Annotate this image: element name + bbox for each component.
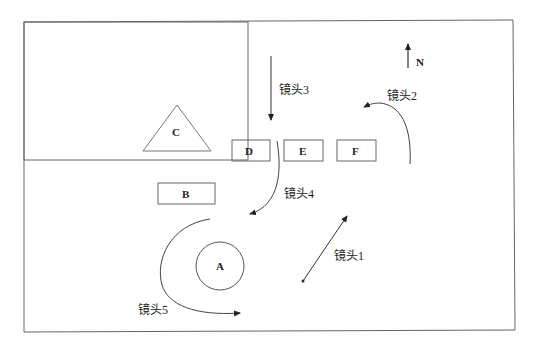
camera-move-1: 镜头1	[302, 216, 365, 283]
shot-1-label: 镜头1	[334, 248, 364, 263]
arc-arrow-icon	[160, 219, 240, 313]
object-f-label: F	[352, 145, 359, 157]
camera-move-5: 镜头5	[138, 219, 240, 317]
object-e: E	[284, 140, 323, 161]
frame-border	[24, 20, 515, 332]
camera-move-3: 镜头3	[271, 56, 309, 120]
shot-5-label: 镜头5	[138, 302, 168, 317]
object-a-label: A	[216, 260, 224, 272]
north-compass: N	[408, 44, 424, 68]
shot-4-label: 镜头4	[284, 186, 314, 201]
object-b-label: B	[182, 188, 190, 200]
object-e-label: E	[299, 145, 306, 157]
object-f: F	[337, 140, 376, 161]
object-c: C	[143, 105, 211, 151]
object-c-label: C	[172, 126, 180, 138]
diagram-frame-full	[24, 22, 247, 159]
curved-arrow-icon	[364, 103, 410, 164]
diagram-frame	[24, 22, 248, 160]
shot-2-label: 镜头2	[387, 88, 417, 103]
curved-arrow-icon	[250, 141, 279, 214]
object-d-label: D	[245, 145, 253, 157]
object-a: A	[196, 242, 244, 290]
shot-3-label: 镜头3	[279, 82, 309, 97]
camera-movement-diagram: N C D E F B A 镜头3 镜头2 镜头4	[0, 0, 534, 348]
object-d: D	[232, 140, 270, 161]
object-b: B	[158, 183, 215, 204]
camera-move-2: 镜头2	[364, 88, 417, 164]
north-label: N	[416, 56, 424, 68]
